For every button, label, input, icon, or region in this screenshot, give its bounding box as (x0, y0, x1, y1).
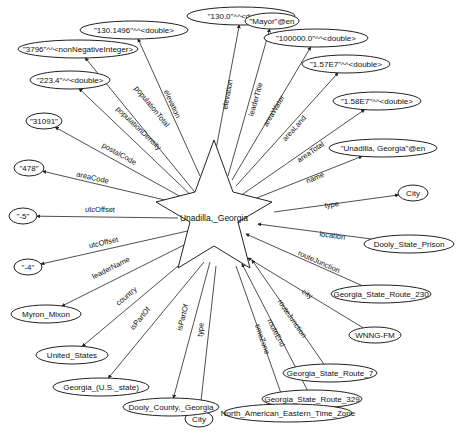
node-478[interactable]: "478" (14, 160, 44, 176)
node-1-58e7-double[interactable]: "1.58E7"^^<double> (333, 92, 421, 110)
edge-label: location (319, 229, 346, 241)
node-label: Georgia_State_Route_230 (333, 290, 429, 299)
node-label: North_American_Eastern_Time_Zone (221, 409, 356, 418)
node-label: "130.1496"^^<double> (94, 26, 174, 35)
edge-label: name (305, 170, 326, 185)
edge-postalcode[interactable]: postalCode (55, 127, 192, 203)
node-georgia-state-route-7[interactable]: Georgia_State_Route_7 (283, 364, 377, 382)
node-label: Dooly_County,_Georgia (129, 403, 214, 412)
node-label: Georgia_State_Route_329 (264, 395, 360, 404)
node-label: Dooly_State_Prison (374, 240, 445, 249)
rdf-graph-canvas: elevationelevationleaderTitleareaWaterar… (0, 0, 460, 434)
edge-label: type (195, 322, 206, 337)
edge-line (37, 216, 178, 218)
edge-label: leaderTitle (247, 81, 265, 117)
node-130-1496-double[interactable]: "130.1496"^^<double> (80, 21, 188, 39)
node-wnng-fm[interactable]: WNNG-FM (349, 327, 401, 343)
edge-label: routeJunction (297, 248, 342, 275)
edge-label: areaWater (261, 93, 287, 128)
edge-label: isPartOf (175, 302, 191, 331)
node-georgia-state-route-230[interactable]: Georgia_State_Route_230 (331, 285, 431, 303)
edge-arealand[interactable]: areaLand (236, 73, 338, 186)
center-node-label: Unadilla,_Georgia (180, 213, 248, 223)
node-4[interactable]: "-4" (14, 259, 42, 275)
edge-label: utcOffset (88, 235, 120, 251)
node-mayor-en[interactable]: "Mayor"@en (245, 13, 299, 29)
edge-line (55, 127, 192, 203)
node-label: City (406, 189, 420, 198)
node-1-57e7-double[interactable]: "1.57E7"^^<double> (302, 55, 390, 73)
edge-line (258, 224, 371, 239)
edge-name[interactable]: name (244, 156, 362, 203)
node-223-4-double[interactable]: "223.4"^^<double> (30, 71, 110, 89)
edge-line (108, 262, 204, 378)
node-unadilla-georgia-en[interactable]: "Unadilla, Georgia"@en (329, 139, 437, 157)
node-label: Myron_Mixon (22, 310, 70, 319)
node-label: "223.4"^^<double> (37, 76, 104, 85)
node-label: "31091" (30, 117, 58, 126)
edge-type[interactable]: type (195, 266, 216, 411)
node-31091[interactable]: "31091" (26, 113, 62, 129)
edge-label: elevation (220, 79, 234, 110)
edge-label: leaderName (91, 255, 132, 281)
edge-label: areaLand (280, 114, 308, 144)
node-3796-nonnegativeinteger[interactable]: "3796"^^<nonNegativeInteger> (18, 40, 138, 58)
edge-utcoffset[interactable]: utcOffset (37, 205, 178, 218)
edge-line (200, 266, 216, 411)
node-label: WNNG-FM (355, 331, 395, 340)
edge-label: type (324, 199, 339, 210)
node-myron-mixon[interactable]: Myron_Mixon (11, 305, 81, 323)
node-5[interactable]: "-5" (9, 208, 37, 224)
node-label: "-4" (22, 263, 35, 272)
edge-label: utcOffset (85, 205, 116, 214)
node-dooly-state-prison[interactable]: Dooly_State_Prison (364, 235, 454, 253)
edge-label: areaTotal (295, 139, 326, 164)
node-united-states[interactable]: United_States (36, 346, 108, 364)
node-dooly-county-georgia[interactable]: Dooly_County,_Georgia (123, 398, 219, 416)
node-label: Georgia_State_Route_7 (287, 369, 374, 378)
node-label: United_States (47, 351, 97, 360)
node-label: "3796"^^<nonNegativeInteger> (23, 45, 133, 54)
node-label: "100000.0"^^<double> (276, 34, 356, 43)
node-city[interactable]: City (398, 185, 428, 201)
node-label: "478" (19, 164, 38, 173)
edge-type[interactable]: type (274, 195, 398, 212)
node-label: "1.58E7"^^<double> (341, 97, 413, 106)
edge-location[interactable]: location (258, 224, 371, 242)
edge-elevation[interactable]: elevation (214, 25, 239, 160)
star-shape-icon (156, 140, 272, 268)
node-label: "-5" (17, 212, 30, 221)
edge-label: city (300, 287, 314, 301)
node-north-american-eastern-time-zone[interactable]: North_American_Eastern_Time_Zone (221, 404, 356, 422)
edge-ispartof[interactable]: isPartOf (108, 262, 204, 378)
node-label: Georgia_(U.S._state) (63, 383, 139, 392)
center-node[interactable]: Unadilla,_Georgia (156, 140, 272, 268)
edge-label: isPartOf (128, 304, 153, 331)
node-georgia-u-s-state[interactable]: Georgia_(U.S._state) (53, 378, 149, 396)
node-label: "1.57E7"^^<double> (310, 60, 382, 69)
node-100000-0-double[interactable]: "100000.0"^^<double> (264, 29, 368, 47)
node-label: "Mayor"@en (250, 17, 295, 26)
edge-label: country (114, 285, 139, 308)
node-label: City (192, 415, 206, 424)
edge-routejunction[interactable]: routeJunction (246, 234, 362, 286)
edge-line (244, 156, 362, 203)
node-label: "Unadilla, Georgia"@en (341, 144, 426, 153)
